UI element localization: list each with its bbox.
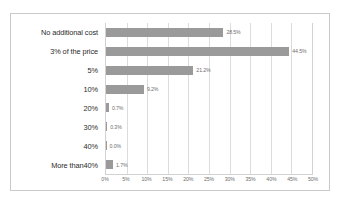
bar-row: 44.5% <box>106 42 312 61</box>
bar[interactable] <box>106 47 289 56</box>
bar-value-label: 28.5% <box>226 29 240 35</box>
category-label: 10% <box>11 80 103 99</box>
bar[interactable] <box>106 28 223 37</box>
category-label: More than40% <box>11 156 103 175</box>
axis-tick-label: 10% <box>142 176 152 182</box>
bar[interactable] <box>106 85 144 94</box>
bar-value-label: 1.7% <box>116 162 127 168</box>
axis-tick-label: 50% <box>308 176 318 182</box>
axis-tick-label: 45% <box>287 176 297 182</box>
category-axis: No additional cost 3% of the price 5% 10… <box>11 23 103 175</box>
bars-layer: 28.5% 44.5% 21.2% 9.2% 0.7% 0.3% <box>106 23 312 174</box>
bar-row: 1.7% <box>106 155 312 174</box>
bar[interactable] <box>106 141 107 150</box>
axis-tick-label: 40% <box>266 176 276 182</box>
category-label: No additional cost <box>11 23 103 42</box>
chart-frame: No additional cost 3% of the price 5% 10… <box>10 13 330 191</box>
axis-tick-label: 0% <box>101 176 108 182</box>
category-label: 30% <box>11 118 103 137</box>
bar-value-label: 44.5% <box>292 48 306 54</box>
bar-row: 0.0% <box>106 136 312 155</box>
axis-tick-label: 35% <box>246 176 256 182</box>
category-label: 20% <box>11 99 103 118</box>
bar[interactable] <box>106 103 109 112</box>
bar-row: 21.2% <box>106 61 312 80</box>
axis-tick-label: 20% <box>183 176 193 182</box>
bar-value-label: 0.7% <box>112 105 123 111</box>
bar-value-label: 21.2% <box>196 67 210 73</box>
bar[interactable] <box>106 66 193 75</box>
axis-tick-label: 30% <box>225 176 235 182</box>
bar-row: 0.3% <box>106 117 312 136</box>
bar-value-label: 0.3% <box>110 124 121 130</box>
axis-tick-label: 15% <box>162 176 172 182</box>
category-label: 3% of the price <box>11 42 103 61</box>
bar-value-label: 0.0% <box>110 143 121 149</box>
category-label: 40% <box>11 137 103 156</box>
plot-area: 28.5% 44.5% 21.2% 9.2% 0.7% 0.3% <box>105 23 313 175</box>
category-label: 5% <box>11 61 103 80</box>
bar-row: 28.5% <box>106 23 312 42</box>
bar[interactable] <box>106 160 113 169</box>
bar-value-label: 9.2% <box>147 86 158 92</box>
bar-row: 0.7% <box>106 99 312 118</box>
value-axis: 0%5%10%15%20%25%30%35%40%45%50% <box>105 176 313 188</box>
axis-tick-label: 25% <box>204 176 214 182</box>
axis-tick-label: 5% <box>122 176 129 182</box>
bar-row: 9.2% <box>106 80 312 99</box>
bar[interactable] <box>106 122 107 131</box>
